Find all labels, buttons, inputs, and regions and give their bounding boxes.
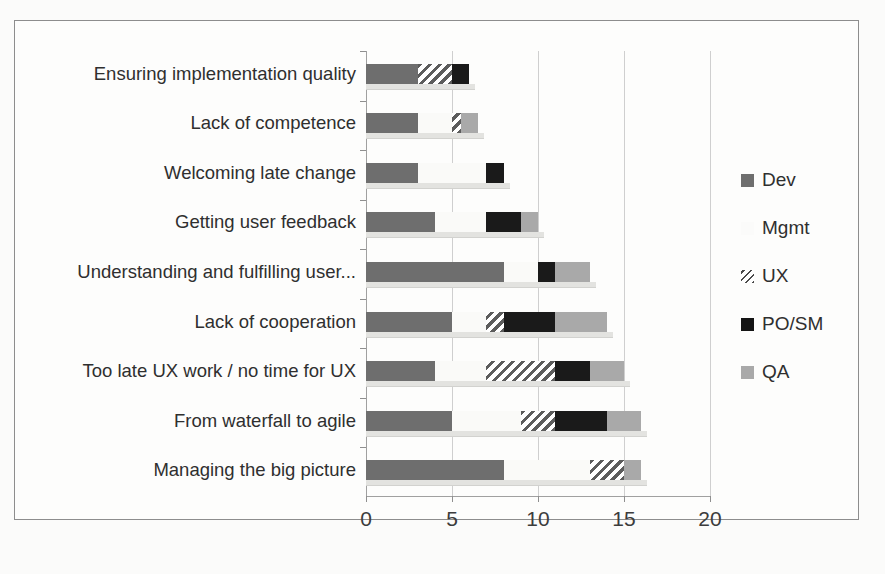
legend-label: PO/SM (762, 313, 823, 335)
bar-segment-po-sm[interactable] (555, 411, 607, 431)
x-tick-label: 15 (612, 507, 635, 531)
stacked-bar[interactable] (366, 262, 590, 282)
legend-swatch-qa (741, 366, 754, 379)
bar-segment-ux[interactable] (590, 460, 624, 480)
bar-row: Ensuring implementation quality (366, 64, 710, 84)
legend-swatch-ux (741, 270, 754, 283)
bar-segment-qa[interactable] (555, 262, 589, 282)
stacked-bar[interactable] (366, 212, 538, 232)
legend-swatch-dev (741, 174, 754, 187)
y-tick-mark (360, 348, 366, 349)
stacked-bar[interactable] (366, 64, 469, 84)
x-tick-mark-0 (366, 496, 367, 502)
x-tick-mark-15 (624, 496, 625, 502)
bar-segment-mgmt[interactable] (418, 163, 487, 183)
bar-segment-po-sm[interactable] (486, 163, 503, 183)
y-tick-mark (360, 398, 366, 399)
bar-segment-po-sm[interactable] (504, 312, 556, 332)
legend-item[interactable]: Dev (741, 156, 851, 204)
bar-segment-dev[interactable] (366, 411, 452, 431)
category-label: Too late UX work / no time for UX (83, 361, 357, 381)
category-label: Lack of competence (190, 113, 356, 133)
legend-item[interactable]: Mgmt (741, 204, 851, 252)
legend-item[interactable]: QA (741, 348, 851, 396)
bar-row: From waterfall to agile (366, 411, 710, 431)
stacked-bar[interactable] (366, 361, 624, 381)
bar-row: Too late UX work / no time for UX (366, 361, 710, 381)
x-tick-mark-5 (452, 496, 453, 502)
bar-row: Lack of competence (366, 113, 710, 133)
bar-segment-qa[interactable] (590, 361, 624, 381)
legend-swatch-po-sm (741, 318, 754, 331)
bar-row: Getting user feedback (366, 212, 710, 232)
category-label: Ensuring implementation quality (94, 64, 356, 84)
x-tick-label: 20 (698, 507, 721, 531)
category-label: Welcoming late change (164, 163, 356, 183)
stacked-bar[interactable] (366, 312, 607, 332)
bar-segment-qa[interactable] (624, 460, 641, 480)
category-label: Getting user feedback (175, 212, 356, 232)
bar-segment-mgmt[interactable] (504, 262, 538, 282)
bar-segment-qa[interactable] (461, 113, 478, 133)
bar-segment-mgmt[interactable] (452, 312, 486, 332)
bar-shadow (366, 431, 647, 437)
bar-shadow (366, 84, 475, 90)
legend-label: QA (762, 361, 789, 383)
legend-item[interactable]: UX (741, 252, 851, 300)
stacked-bar[interactable] (366, 113, 478, 133)
y-tick-mark (360, 447, 366, 448)
bar-segment-mgmt[interactable] (418, 113, 452, 133)
stacked-bar[interactable] (366, 163, 504, 183)
bar-row: Managing the big picture (366, 460, 710, 480)
bar-row: Lack of cooperation (366, 312, 710, 332)
x-tick-mark-20 (710, 496, 711, 502)
bar-segment-ux[interactable] (486, 312, 503, 332)
y-tick-mark (360, 101, 366, 102)
bar-segment-po-sm[interactable] (555, 361, 589, 381)
bar-segment-ux[interactable] (521, 411, 555, 431)
bar-segment-dev[interactable] (366, 460, 504, 480)
bar-segment-mgmt[interactable] (435, 361, 487, 381)
bar-segment-dev[interactable] (366, 361, 435, 381)
legend-item[interactable]: PO/SM (741, 300, 851, 348)
bar-segment-mgmt[interactable] (435, 212, 487, 232)
bar-row: Understanding and fulfilling user... (366, 262, 710, 282)
category-label: Understanding and fulfilling user... (77, 262, 356, 282)
bar-segment-qa[interactable] (521, 212, 538, 232)
bar-segment-ux[interactable] (486, 361, 555, 381)
stacked-bar[interactable] (366, 411, 641, 431)
bar-segment-qa[interactable] (555, 312, 607, 332)
chart-legend: DevMgmtUXPO/SMQA (741, 156, 851, 396)
stacked-bar[interactable] (366, 460, 641, 480)
bar-segment-dev[interactable] (366, 312, 452, 332)
y-tick-mark (360, 249, 366, 250)
chart-frame: Ensuring implementation qualityLack of c… (14, 20, 859, 520)
bar-segment-dev[interactable] (366, 113, 418, 133)
x-tick-mark-10 (538, 496, 539, 502)
legend-label: Mgmt (762, 217, 810, 239)
bar-segment-po-sm[interactable] (452, 64, 469, 84)
bar-segment-dev[interactable] (366, 163, 418, 183)
bar-segment-ux[interactable] (418, 64, 452, 84)
bar-segment-mgmt[interactable] (452, 411, 521, 431)
bar-segment-ux[interactable] (452, 113, 461, 133)
bar-row: Welcoming late change (366, 163, 710, 183)
y-tick-mark (360, 150, 366, 151)
legend-swatch-mgmt (741, 222, 754, 235)
bar-segment-mgmt[interactable] (504, 460, 590, 480)
gridline-20 (710, 51, 711, 497)
bar-segment-dev[interactable] (366, 64, 418, 84)
bar-segment-qa[interactable] (607, 411, 641, 431)
x-tick-label: 10 (526, 507, 549, 531)
category-label: Lack of cooperation (195, 312, 356, 332)
bar-shadow (366, 232, 544, 238)
y-tick-mark (360, 299, 366, 300)
bar-shadow (366, 332, 613, 338)
page-background: Ensuring implementation qualityLack of c… (0, 0, 885, 574)
category-label: Managing the big picture (153, 460, 356, 480)
bar-segment-dev[interactable] (366, 212, 435, 232)
category-label: From waterfall to agile (174, 411, 356, 431)
bar-segment-dev[interactable] (366, 262, 504, 282)
bar-segment-po-sm[interactable] (538, 262, 555, 282)
bar-segment-po-sm[interactable] (486, 212, 520, 232)
